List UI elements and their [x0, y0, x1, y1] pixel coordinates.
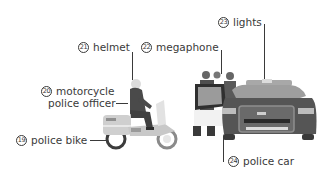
number-badge: 24	[228, 156, 239, 167]
label-text: megaphone	[156, 41, 219, 53]
label-motorcycle-police-officer-line2: police officer	[48, 97, 116, 109]
police-car-illustration	[222, 79, 317, 140]
label-helmet: 21 helmet	[78, 41, 130, 53]
helmet-leader-line	[132, 52, 133, 80]
label-text: police bike	[31, 134, 87, 146]
label-text-line1: motorcycle	[56, 85, 114, 97]
label-lights: 23 lights	[218, 16, 262, 28]
label-text: helmet	[93, 41, 130, 53]
number-badge: 23	[218, 17, 229, 28]
label-police-car: 24 police car	[228, 155, 294, 167]
megaphone-leader-line	[221, 50, 222, 74]
label-megaphone: 22 megaphone	[141, 41, 219, 53]
motorcycle-officer-illustration	[130, 79, 154, 130]
officer-leader-line	[116, 103, 128, 104]
number-badge: 21	[78, 42, 89, 53]
lights-leader-line	[264, 24, 265, 79]
number-badge: 19	[16, 135, 27, 146]
bike-leader-line	[90, 140, 108, 141]
label-text: lights	[233, 16, 262, 28]
car-leader-line	[223, 136, 224, 162]
label-police-bike: 19 police bike	[16, 134, 87, 146]
label-text: police car	[243, 155, 294, 167]
number-badge: 22	[141, 42, 152, 53]
label-motorcycle-police-officer: 20 motorcycle	[41, 85, 114, 97]
number-badge: 20	[41, 86, 52, 97]
